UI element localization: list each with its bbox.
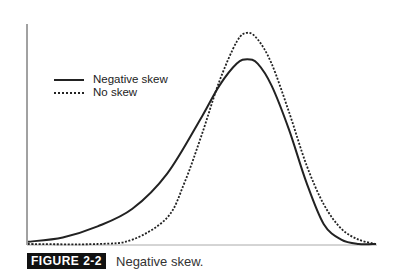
legend: Negative skew No skew [54,73,168,99]
dotted-line-swatch [54,92,84,94]
chart-plot [0,0,396,273]
figure-title: Negative skew. [116,254,203,269]
legend-item-no-skew: No skew [54,86,168,99]
legend-label: Negative skew [93,73,168,86]
legend-label: No skew [93,86,137,99]
solid-line-swatch [54,79,84,81]
no-skew-curve [28,33,376,245]
figure-caption: FIGURE 2-2 Negative skew. [27,253,203,269]
legend-item-negative-skew: Negative skew [54,73,168,86]
figure-label: FIGURE 2-2 [27,253,106,269]
